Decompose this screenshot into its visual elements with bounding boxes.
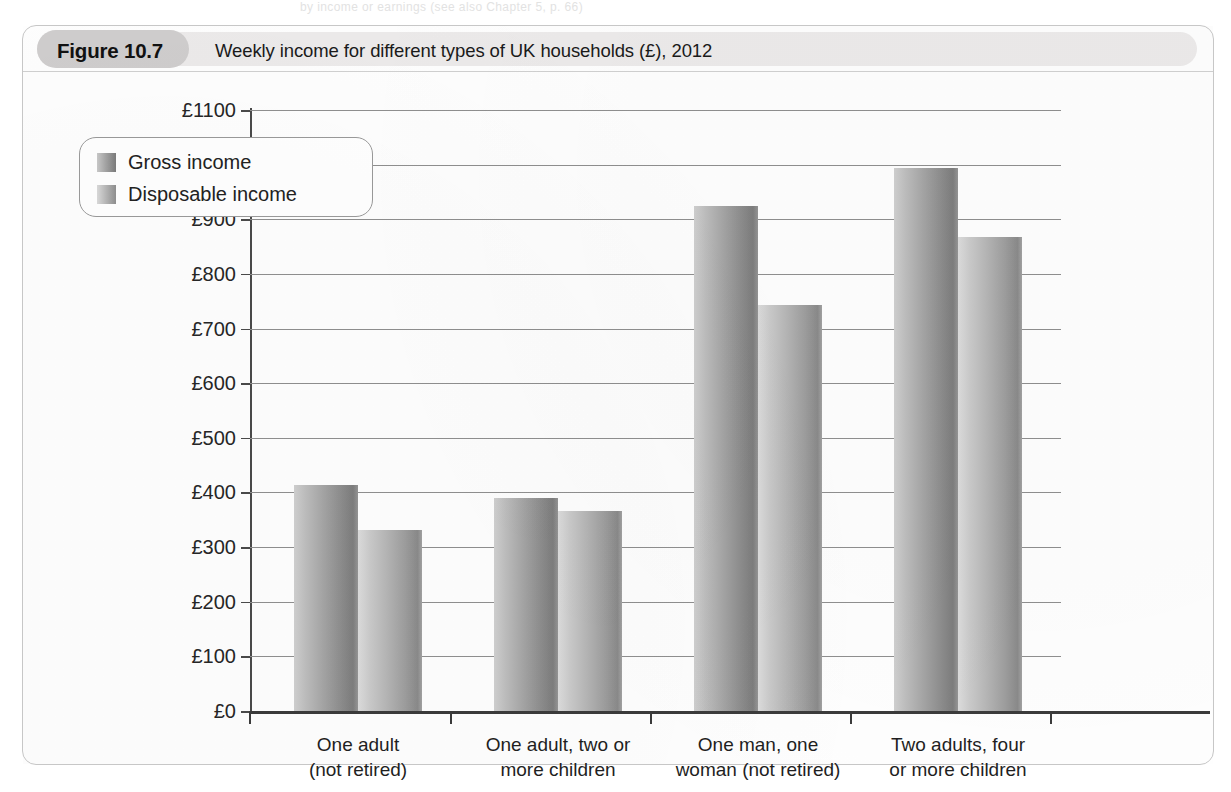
y-axis-tick-label: £1100 [126,99,236,122]
legend-label-disposable: Disposable income [128,183,297,206]
x-axis-tick [450,711,452,724]
figure-title: Weekly income for different types of UK … [215,40,712,62]
x-axis-tick-label: Two adults, four or more children [858,732,1058,782]
bar-gross-2 [694,206,758,711]
bar-gross-3 [894,168,958,711]
y-axis-tick-label: £0 [126,700,236,723]
page-bleed-text: by income or earnings (see also Chapter … [300,0,940,18]
figure-caption-bar: Figure 10.7 Weekly income for different … [23,26,1213,72]
x-axis-line [249,711,1210,714]
y-axis-tick [241,547,250,549]
y-axis-tick [241,274,250,276]
y-axis-tick-label: £200 [126,590,236,613]
x-axis-tick-label: One adult (not retired) [258,732,458,782]
y-axis-tick-label: £100 [126,645,236,668]
x-axis-tick [650,711,652,724]
bar-gross-0 [294,485,358,711]
legend-item-disposable-income: Disposable income [97,179,297,209]
bar-gross-1 [494,498,558,711]
y-axis-tick [241,438,250,440]
y-axis-tick-label: £600 [126,372,236,395]
x-axis-tick [850,711,852,724]
figure-container: Figure 10.7 Weekly income for different … [22,25,1214,765]
gross-swatch-icon [97,153,116,172]
bar-disposable-0 [358,530,422,711]
x-axis-tick-label: One man, one woman (not retired) [658,732,858,782]
y-axis-tick [241,219,250,221]
y-axis-tick-label: £800 [126,262,236,285]
bar-disposable-1 [558,511,622,712]
y-axis-tick [241,110,250,112]
legend-item-gross-income: Gross income [97,147,251,177]
y-axis-tick-label: £300 [126,536,236,559]
y-axis-tick [241,383,250,385]
bar-disposable-3 [958,237,1022,711]
y-axis-tick [241,492,250,494]
y-axis-tick-label: £700 [126,317,236,340]
y-axis-tick [241,656,250,658]
bar-disposable-2 [758,305,822,711]
chart-legend: Gross income Disposable income [79,137,373,217]
x-axis-origin-tick [249,711,251,724]
y-axis-tick [241,329,250,331]
figure-number: Figure 10.7 [57,39,163,63]
x-axis-tick [1050,711,1052,724]
x-axis-tick-label: One adult, two or more children [458,732,658,782]
disposable-swatch-icon [97,185,116,204]
gridline [250,110,1061,111]
y-axis-tick-label: £500 [126,426,236,449]
y-axis-tick [241,602,250,604]
legend-label-gross: Gross income [128,151,251,174]
chart-area: £0£100£200£300£400£500£600£700£800£900£1… [23,72,1213,764]
y-axis-tick-label: £400 [126,481,236,504]
